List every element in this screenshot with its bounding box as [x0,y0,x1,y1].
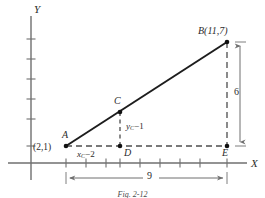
figure-caption: Fig. 2-12 [0,190,265,198]
y-axis-label: Y [34,4,40,15]
point-label-d: D [124,148,131,158]
x-axis-label: X [251,158,258,169]
point-label-a: A [62,130,68,140]
point-marker-b [225,40,230,45]
point-label-c: C [114,96,121,106]
dimension-label-9: 9 [147,171,152,181]
point-coords-a: (2,1) [33,143,51,153]
coordinate-geometry-figure: Y X A (2,1) B(11,7) C D E xC−2 yC−1 6 9 … [0,0,265,198]
segment-label-xc-minus-2: xC−2 [77,150,95,159]
segment-label-yc-minus-1: yC−1 [126,122,144,131]
xc-suffix: −2 [85,149,95,159]
x-axis [8,159,247,168]
point-marker-d [118,144,123,149]
point-label-e: E [222,148,228,158]
point-marker-c [118,110,123,115]
dimension-label-6: 6 [234,87,239,97]
segment-ab [66,42,227,146]
y-axis [27,16,36,180]
point-marker-a [64,144,69,149]
point-coords-b: B(11,7) [198,26,228,36]
yc-suffix: −1 [134,121,144,131]
